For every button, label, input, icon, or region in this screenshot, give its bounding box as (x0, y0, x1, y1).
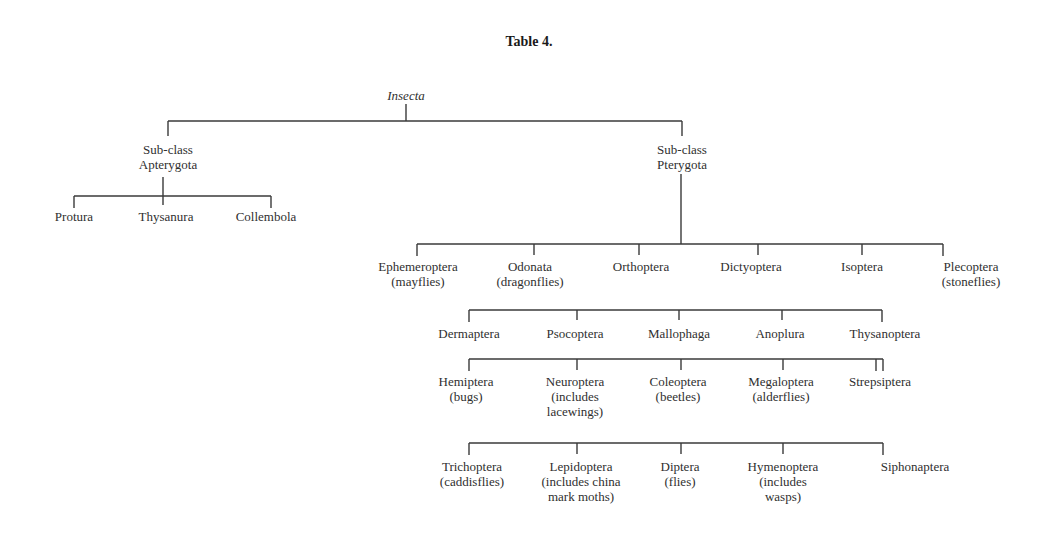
node-subclass-pterygota: Sub-class Pterygota (657, 142, 707, 172)
node-megaloptera: Megaloptera (alderflies) (748, 374, 814, 404)
order-name: Trichoptera (440, 459, 504, 474)
node-insecta: Insecta (387, 88, 425, 103)
order-name: Hymenoptera (748, 459, 819, 474)
order-name: Dictyoptera (720, 259, 781, 274)
node-dictyoptera: Dictyoptera (720, 259, 781, 274)
node-strepsiptera: Strepsiptera (849, 374, 911, 389)
node-neuroptera: Neuroptera (includes lacewings) (546, 374, 604, 419)
subclass-label: Sub-class (139, 142, 197, 157)
common-name-cont: lacewings) (546, 404, 604, 419)
order-name: Lepidoptera (541, 459, 620, 474)
node-isoptera: Isoptera (841, 259, 883, 274)
order-name: Orthoptera (613, 259, 669, 274)
common-name: (caddisflies) (440, 474, 504, 489)
order-name: Isoptera (841, 259, 883, 274)
order-name: Coleoptera (649, 374, 706, 389)
node-thysanura: Thysanura (139, 209, 194, 224)
node-plecoptera: Plecoptera (stoneflies) (942, 259, 1000, 289)
common-name: (mayflies) (378, 274, 457, 289)
order-name: Strepsiptera (849, 374, 911, 389)
node-lepidoptera: Lepidoptera (includes china mark moths) (541, 459, 620, 504)
node-coleoptera: Coleoptera (beetles) (649, 374, 706, 404)
node-orthoptera: Orthoptera (613, 259, 669, 274)
node-ephemeroptera: Ephemeroptera (mayflies) (378, 259, 457, 289)
common-name: (dragonflies) (496, 274, 563, 289)
common-name: (beetles) (649, 389, 706, 404)
order-name: Ephemeroptera (378, 259, 457, 274)
common-name: (includes china (541, 474, 620, 489)
node-subclass-apterygota: Sub-class Apterygota (139, 142, 197, 172)
common-name: (flies) (661, 474, 700, 489)
subclass-name: Apterygota (139, 157, 197, 172)
common-name-cont: wasps) (748, 489, 819, 504)
node-mallophaga: Mallophaga (648, 326, 710, 341)
node-diptera: Diptera (flies) (661, 459, 700, 489)
subclass-label: Sub-class (657, 142, 707, 157)
node-collembola: Collembola (236, 209, 297, 224)
node-siphonaptera: Siphonaptera (881, 459, 950, 474)
common-name: (includes (546, 389, 604, 404)
node-anoplura: Anoplura (755, 326, 804, 341)
order-name: Odonata (496, 259, 563, 274)
node-protura: Protura (55, 209, 93, 224)
node-thysanoptera: Thysanoptera (850, 326, 921, 341)
node-dermaptera: Dermaptera (438, 326, 499, 341)
order-name: Diptera (661, 459, 700, 474)
node-trichoptera: Trichoptera (caddisflies) (440, 459, 504, 489)
common-name: (stoneflies) (942, 274, 1000, 289)
node-odonata: Odonata (dragonflies) (496, 259, 563, 289)
subclass-name: Pterygota (657, 157, 707, 172)
order-name: Megaloptera (748, 374, 814, 389)
order-name: Siphonaptera (881, 459, 950, 474)
common-name-cont: mark moths) (541, 489, 620, 504)
common-name: (bugs) (439, 389, 494, 404)
common-name: (includes (748, 474, 819, 489)
order-name: Plecoptera (942, 259, 1000, 274)
node-hymenoptera: Hymenoptera (includes wasps) (748, 459, 819, 504)
node-psocoptera: Psocoptera (546, 326, 603, 341)
order-name: Neuroptera (546, 374, 604, 389)
node-hemiptera: Hemiptera (bugs) (439, 374, 494, 404)
order-name: Hemiptera (439, 374, 494, 389)
common-name: (alderflies) (748, 389, 814, 404)
